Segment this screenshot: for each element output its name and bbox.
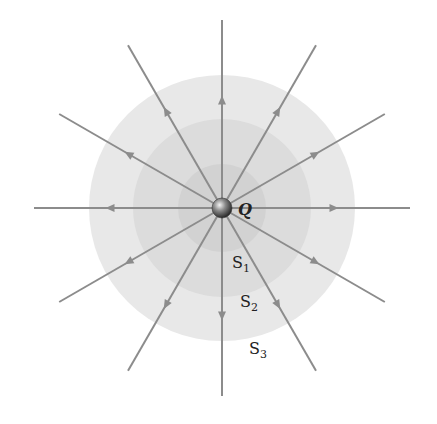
point-charge: [212, 198, 232, 218]
charge-label: Q: [238, 200, 252, 219]
surface-label-s3: S3: [249, 339, 267, 361]
field-diagram: Q S1 S2 S3: [0, 0, 437, 424]
